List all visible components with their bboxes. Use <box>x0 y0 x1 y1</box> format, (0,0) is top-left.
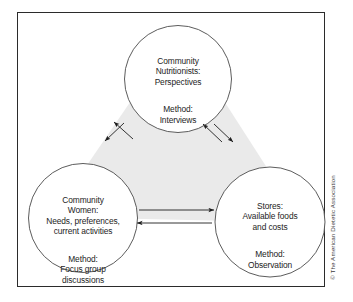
node-title-stores: Stores: Available foods and costs <box>242 201 297 232</box>
spacer <box>125 87 231 93</box>
figure-container: Community Nutritionists: Perspectives Me… <box>0 0 353 302</box>
copyright-credit: © The American Dietetic Association <box>329 140 336 280</box>
node-method-community-women: Method: Focus group discussions <box>60 254 105 285</box>
node-label-community-nutritionists: Community Nutritionists: Perspectives Me… <box>125 45 231 125</box>
node-label-community-women: Community Women: Needs, preferences, cur… <box>28 184 138 285</box>
node-method-community-nutritionists: Method: Interviews <box>160 104 197 125</box>
node-method-stores: Method: Observation <box>248 249 292 270</box>
node-title-community-nutritionists: Community Nutritionists: Perspectives <box>155 56 202 87</box>
spacer <box>28 237 138 243</box>
node-title-community-women: Community Women: Needs, preferences, cur… <box>46 195 120 237</box>
spacer <box>215 232 325 238</box>
node-label-stores: Stores: Available foods and costs Method… <box>215 190 325 270</box>
